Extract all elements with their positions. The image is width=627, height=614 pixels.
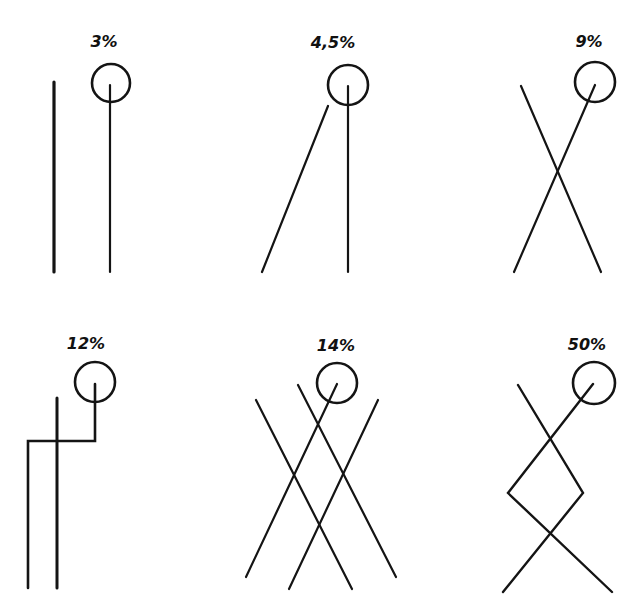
panel-label: 9% xyxy=(575,32,602,51)
stick-line xyxy=(289,400,378,589)
line-group xyxy=(246,384,396,589)
panel-label: 14% xyxy=(317,336,355,355)
stick-line xyxy=(503,385,583,592)
line-group xyxy=(28,384,95,588)
panel-4-5-percent: 4,5% xyxy=(262,33,368,272)
panel-9-percent: 9% xyxy=(514,32,615,272)
stick-line xyxy=(246,384,337,577)
line-group xyxy=(514,85,601,272)
panel-12-percent: 12% xyxy=(28,334,115,588)
stick-line xyxy=(521,86,601,272)
stick-line xyxy=(28,384,95,588)
panel-3-percent: 3% xyxy=(54,32,130,272)
line-group xyxy=(262,86,348,272)
circle-marker xyxy=(573,362,615,404)
panel-label: 12% xyxy=(67,334,105,353)
line-group xyxy=(54,82,110,272)
stick-line xyxy=(298,385,396,577)
panel-14-percent: 14% xyxy=(246,336,396,589)
diagram-canvas: 3% 4,5% 9% 12% 14% 50% xyxy=(0,0,627,614)
panel-label: 3% xyxy=(90,32,117,51)
stick-line xyxy=(514,85,595,272)
panel-label: 50% xyxy=(568,335,606,354)
stick-line xyxy=(508,384,612,592)
line-group xyxy=(503,384,612,592)
panel-50-percent: 50% xyxy=(503,335,615,592)
stick-line xyxy=(256,400,352,589)
circle-marker xyxy=(575,62,615,102)
panel-label: 4,5% xyxy=(310,33,355,52)
stick-line xyxy=(262,106,328,272)
